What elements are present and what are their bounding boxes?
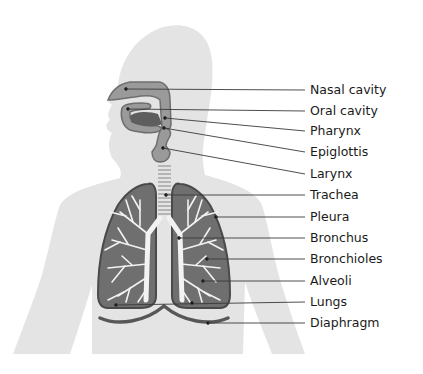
svg-text:Lungs: Lungs <box>310 294 347 309</box>
svg-text:Bronchioles: Bronchioles <box>310 251 383 266</box>
svg-text:Nasal cavity: Nasal cavity <box>310 82 387 97</box>
svg-text:Bronchus: Bronchus <box>310 230 368 245</box>
svg-text:Oral cavity: Oral cavity <box>310 103 378 118</box>
svg-text:Diaphragm: Diaphragm <box>310 315 380 330</box>
svg-text:Alveoli: Alveoli <box>310 273 352 288</box>
svg-text:Trachea: Trachea <box>309 187 359 202</box>
respiratory-system-diagram: Nasal cavity Oral cavity Pharynx Epiglot… <box>0 0 423 374</box>
svg-text:Pharynx: Pharynx <box>310 123 361 138</box>
svg-text:Pleura: Pleura <box>310 209 349 224</box>
svg-text:Larynx: Larynx <box>310 166 352 181</box>
svg-text:Epiglottis: Epiglottis <box>310 144 368 159</box>
trachea <box>158 166 171 214</box>
